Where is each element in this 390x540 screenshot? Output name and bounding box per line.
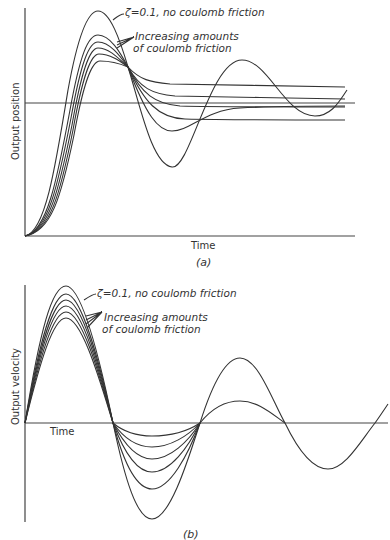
panel-b-neg-lobe-1 bbox=[113, 423, 200, 489]
panel-a-leader-no-friction bbox=[113, 14, 124, 20]
panel-b-xlabel: Time bbox=[50, 426, 74, 437]
panel-a-annotation-no-friction: ζ=0.1, no coulomb friction bbox=[125, 6, 265, 18]
panel-b-label: (b) bbox=[183, 528, 199, 540]
panel-b-leader-no-friction bbox=[84, 294, 96, 300]
panel-a-annotation-friction-1: Increasing amounts bbox=[135, 30, 239, 42]
panel-a-xlabel: Time bbox=[191, 240, 215, 251]
panel-a-ylabel: Output position bbox=[10, 82, 21, 160]
figure-canvas bbox=[0, 0, 390, 540]
panel-b-annotation-friction-2: of coulomb friction bbox=[102, 323, 201, 335]
panel-a-annotation-friction-2: of coulomb friction bbox=[133, 42, 232, 54]
panel-a-label: (a) bbox=[196, 256, 211, 269]
panel-a-curve-friction-5 bbox=[25, 61, 345, 236]
panel-b-small-pos-lobe bbox=[200, 401, 285, 423]
panel-b-annotation-no-friction: ζ=0.1, no coulomb friction bbox=[97, 287, 237, 299]
panel-b-ylabel: Output velocity bbox=[10, 348, 21, 425]
panel-b-annotation-friction-1: Increasing amounts bbox=[104, 311, 208, 323]
panel-a-curve-friction-4 bbox=[25, 54, 345, 236]
